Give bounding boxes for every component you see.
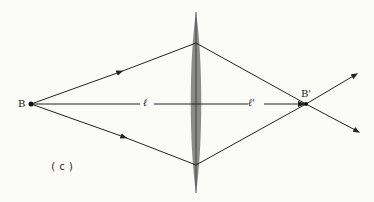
upper-exit-ray (306, 104, 357, 131)
image-point-label: B' (301, 89, 311, 99)
lower-refracted-ray (196, 104, 306, 165)
upper-incident-ray-cont (120, 43, 196, 72)
image-point-icon (304, 102, 308, 106)
object-point-label: B (18, 99, 25, 109)
upper-incident-ray (31, 72, 120, 104)
object-distance-label: ℓ (143, 98, 147, 108)
image-distance-label: ℓ' (248, 98, 255, 108)
lower-incident-ray-cont (124, 137, 196, 165)
object-point-icon (29, 102, 34, 107)
figure-caption: (c) (50, 162, 77, 172)
lower-exit-ray (306, 75, 355, 104)
lower-incident-ray (31, 104, 124, 137)
upper-refracted-ray (196, 43, 306, 104)
